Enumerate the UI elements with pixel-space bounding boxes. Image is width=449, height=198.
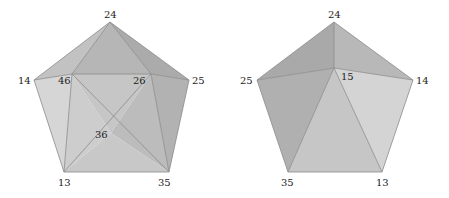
vertex-label-bottom-left: 13 — [58, 177, 71, 188]
vertex-label-right: 25 — [192, 75, 205, 86]
vertex-label-top: 24 — [104, 9, 117, 20]
vertex-label-left: 25 — [240, 75, 253, 86]
vertex-label-inner-left: 46 — [58, 75, 71, 86]
vertex-label-inner-center: 36 — [95, 129, 108, 140]
vertex-label-top: 24 — [328, 9, 341, 20]
vertex-label-bottom-left: 35 — [281, 177, 294, 188]
vertex-label-left: 14 — [18, 75, 31, 86]
diagram-canvas: 24 14 25 13 35 46 26 36 24 25 14 35 13 1… — [0, 0, 449, 198]
right-pentagon: 24 25 14 35 13 15 — [240, 9, 429, 188]
vertex-label-bottom-right: 35 — [158, 177, 171, 188]
vertex-label-inner-right: 26 — [133, 75, 146, 86]
left-pentagon: 24 14 25 13 35 46 26 36 — [18, 9, 205, 188]
vertex-label-bottom-right: 13 — [376, 177, 389, 188]
vertex-label-right: 14 — [416, 75, 429, 86]
vertex-label-inner-center: 15 — [341, 71, 354, 82]
